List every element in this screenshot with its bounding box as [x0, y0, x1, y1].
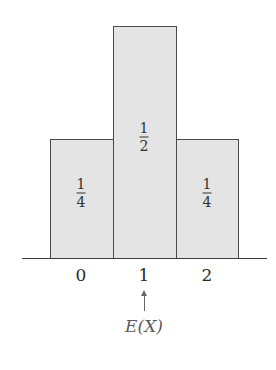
denominator: 4	[77, 196, 86, 209]
numerator: 1	[77, 178, 86, 191]
x-tick-1: 1	[139, 265, 150, 285]
numerator: 1	[203, 178, 212, 191]
bar-value-label-0: 1 4	[77, 178, 86, 209]
bar-value-label-2: 1 4	[203, 178, 212, 209]
denominator: 4	[203, 196, 212, 209]
arrow-shaft	[144, 292, 145, 311]
x-axis-line	[22, 258, 267, 259]
probability-histogram: 1 4 1 2 1 4 0 1 2 E(X)	[0, 0, 276, 370]
x-tick-2: 2	[202, 265, 213, 285]
denominator: 2	[140, 140, 149, 153]
numerator: 1	[140, 122, 149, 135]
x-tick-0: 0	[76, 265, 87, 285]
bar-value-label-1: 1 2	[140, 122, 149, 153]
expected-value-label: E(X)	[125, 316, 163, 336]
